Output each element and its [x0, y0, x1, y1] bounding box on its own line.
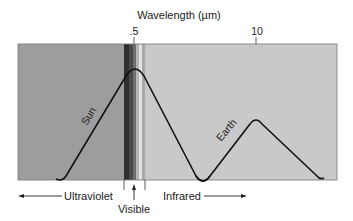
- ultraviolet-region: [18, 44, 124, 180]
- emission-spectrum-diagram: Sun Earth Wavelength (µm) .5 10 Ultravio…: [0, 0, 353, 221]
- visible-band: [124, 44, 145, 180]
- infrared-label: Infrared: [163, 190, 201, 202]
- visible-label: Visible: [118, 203, 150, 215]
- tick-label-0.5: .5: [130, 25, 139, 37]
- ultraviolet-arrowhead-icon: [18, 194, 24, 198]
- axis-title: Wavelength (µm): [137, 9, 221, 21]
- infrared-arrowhead-icon: [241, 194, 247, 198]
- visible-arrowhead-icon: [132, 184, 136, 190]
- ultraviolet-label: Ultraviolet: [64, 190, 113, 202]
- tick-label-10: 10: [251, 25, 263, 37]
- infrared-region: [145, 44, 337, 180]
